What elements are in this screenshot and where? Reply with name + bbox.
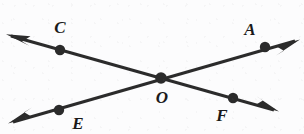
point-dot-e — [54, 105, 64, 115]
point-dot-o — [155, 72, 167, 84]
point-dot-c — [55, 45, 65, 55]
point-dot-a — [260, 42, 270, 52]
line-ea — [8, 40, 300, 124]
point-label-e: E — [72, 115, 83, 132]
point-label-c: C — [54, 19, 65, 36]
point-dot-f — [228, 93, 238, 103]
point-label-a: A — [244, 21, 255, 38]
point-label-f: F — [216, 107, 227, 124]
point-label-o: O — [156, 89, 168, 106]
line-cf — [6, 34, 279, 111]
geometry-canvas — [0, 0, 304, 134]
geometry-figure: C A O E F — [0, 0, 304, 134]
